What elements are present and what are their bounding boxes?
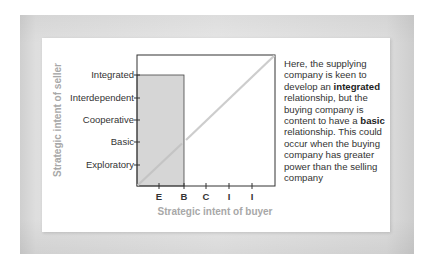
caption-part-3: relationship. This could occur when the … xyxy=(284,126,382,183)
caption-text: Here, the supplying company is keen to d… xyxy=(284,58,392,183)
y-tick-label-basic: Basic xyxy=(111,136,134,147)
caption-part-2: relationship, but the buying company is … xyxy=(284,92,368,126)
caption-bold-integrated: integrated xyxy=(334,81,380,92)
x-axis-title: Strategic intent of buyer xyxy=(150,206,280,218)
y-tick-label-interdependent: Interdependent xyxy=(70,92,134,103)
x-tick-label-cooperative: C xyxy=(199,191,213,202)
caption-bold-basic: basic xyxy=(360,115,385,126)
x-tick-label-integrated: I xyxy=(245,191,259,202)
y-tick-label-cooperative: Cooperative xyxy=(83,114,134,125)
y-axis-title: Strategic intent of seller xyxy=(52,55,64,185)
x-tick-label-basic: B xyxy=(177,191,191,202)
y-tick-label-integrated: Integrated xyxy=(91,69,134,80)
x-tick-label-interdependent: I xyxy=(222,191,236,202)
x-tick-label-exploratory: E xyxy=(152,191,166,202)
y-tick-label-exploratory: Exploratory xyxy=(86,159,134,170)
